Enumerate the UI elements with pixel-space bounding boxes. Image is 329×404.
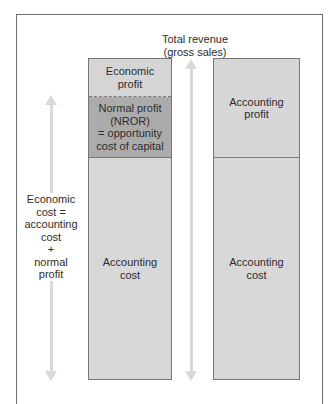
economic-cost-label: Economic cost = accounting cost + normal… xyxy=(18,193,84,281)
normal-profit-label: Normal profit (NROR) = opportunity cost … xyxy=(96,102,163,152)
accounting-profit-segment: Accounting profit xyxy=(214,59,299,158)
accounting-cost-label-left: Accounting cost xyxy=(103,256,157,281)
economic-view-column: Economic profit Normal profit (NROR) = o… xyxy=(88,58,172,380)
economic-profit-segment: Economic profit xyxy=(89,59,171,97)
accounting-cost-segment-left: Accounting cost xyxy=(89,158,171,379)
economic-profit-label: Economic profit xyxy=(106,65,154,90)
accounting-view-column: Accounting profit Accounting cost xyxy=(213,58,300,380)
accounting-cost-label-right: Accounting cost xyxy=(229,256,283,281)
normal-profit-segment: Normal profit (NROR) = opportunity cost … xyxy=(89,97,171,158)
accounting-cost-segment-right: Accounting cost xyxy=(214,158,299,379)
total-revenue-label: Total revenue (gross sales) xyxy=(140,33,250,58)
accounting-profit-label: Accounting profit xyxy=(229,96,283,121)
total-revenue-double-arrow-icon xyxy=(190,68,193,372)
